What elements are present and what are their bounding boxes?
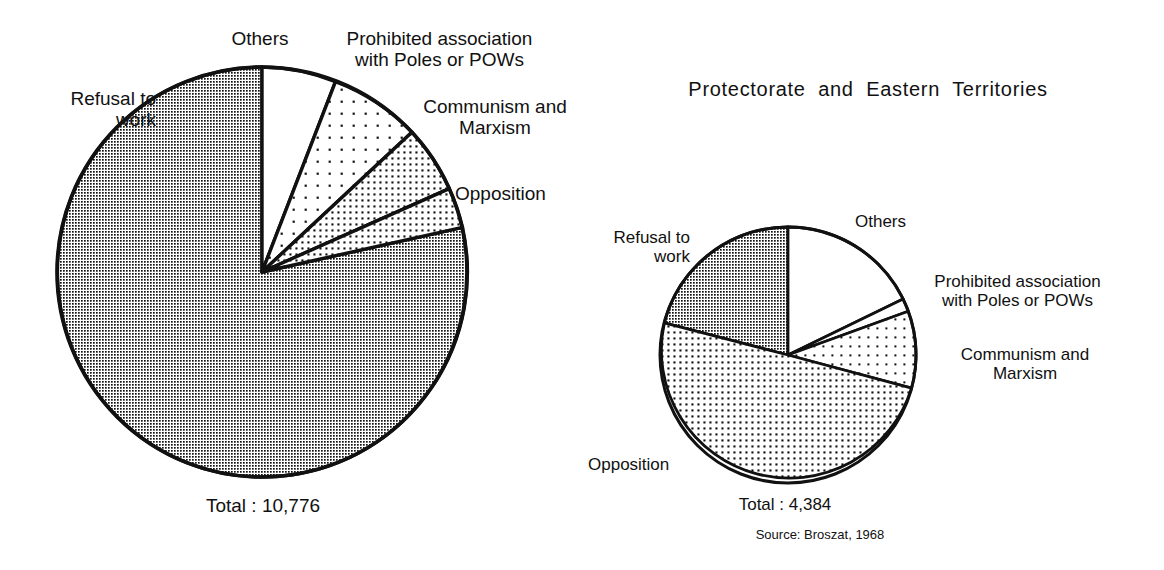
label-opposition-right: Opposition: [588, 455, 728, 474]
total-right: Total : 4,384: [690, 495, 880, 514]
source-note: Source: Broszat, 1968: [700, 528, 940, 543]
label-prohibited-association-right: Prohibited association with Poles or POW…: [895, 272, 1140, 310]
label-others-right: Others: [855, 212, 965, 231]
label-communism-and-marxism-left: Communism and Marxism: [395, 96, 595, 139]
total-left: Total : 10,776: [160, 495, 366, 516]
label-communism-and-marxism-right: Communism and Marxism: [925, 345, 1125, 383]
label-opposition-left: Opposition: [455, 183, 615, 204]
label-refusal-to-work-left: Refusal to work: [6, 88, 156, 131]
pie-chart-right: [660, 227, 916, 483]
label-refusal-to-work-right: Refusal to work: [580, 228, 690, 266]
chart-title: Protectorate and Eastern Territories: [628, 78, 1108, 100]
label-others-left: Others: [205, 28, 315, 49]
figure-canvas: Refusal to work Others Prohibited associ…: [0, 0, 1164, 570]
label-prohibited-association-left: Prohibited association with Poles or POW…: [307, 28, 572, 71]
